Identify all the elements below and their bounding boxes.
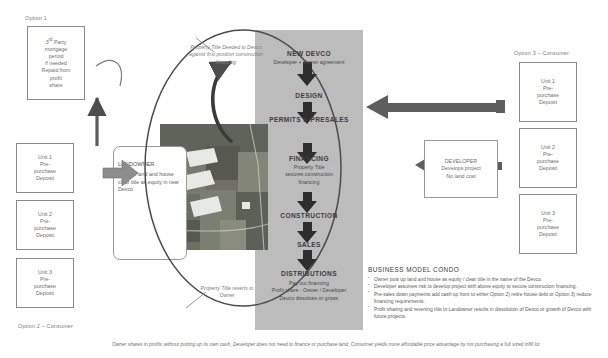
box-left-unit-2-text: Unit 2Pre-purchaseDeposit — [32, 209, 58, 242]
step-construction-title: CONSTRUCTION — [255, 212, 363, 219]
step-financing-title: FINANCING — [255, 155, 363, 162]
step-distributions-sub: Pay out financingProfit share - Owner / … — [247, 280, 371, 302]
box-left-unit-1: Unit 1Pre-purchaseDeposit — [16, 143, 74, 193]
box-third-party-mortgage-text: 3rd Partymortgageperiodif neededRepaid f… — [40, 35, 73, 91]
business-model-bullet-1: Owner puts up land and house as equity /… — [368, 276, 604, 283]
business-model-bullet-4: Profit sharing and reverting title to La… — [368, 306, 604, 321]
box-right-unit-1: Unit 1Pre-purchaseDeposit — [519, 62, 577, 122]
step-sales-title: SALES — [255, 241, 363, 248]
developer-line2: No land cost — [446, 173, 475, 179]
business-model-list: Owner puts up land and house as equity /… — [368, 276, 604, 321]
step-financing-sub: Property Titlesecures constructionfinanc… — [253, 164, 365, 186]
business-model-bullet-3: Pre-sales down payments add cash up fron… — [368, 291, 604, 306]
box-left-unit-3: Unit 3Pre-purchaseDeposit — [16, 258, 74, 308]
business-model-block: BUSINESS MODEL CONDO Owner puts up land … — [368, 266, 604, 321]
option-3-label: Option 3 – Consumer — [514, 50, 569, 56]
box-right-unit-2: Unit 2Pre-purchaseDeposit — [519, 128, 577, 188]
box-right-unit-2-text: Unit 2Pre-purchaseDeposit — [535, 142, 561, 175]
diagram-canvas: LANDOWNER Puts up land and house clear t… — [0, 0, 608, 358]
business-model-bullet-2: Developer assumes risk to develop projec… — [368, 283, 604, 290]
step-new-devco-title: NEW DEVCO — [255, 50, 363, 57]
box-left-unit-2: Unit 2Pre-purchaseDeposit — [16, 200, 74, 250]
business-model-heading: BUSINESS MODEL CONDO — [368, 266, 604, 273]
developer-line1: Develops project — [441, 165, 480, 171]
footer-note: Owner shares in profits without putting … — [112, 342, 604, 348]
box-right-unit-3: Unit 3Pre-purchaseDeposit — [519, 194, 577, 254]
step-new-devco-sub: Developer + Owner agreement — [253, 59, 365, 66]
box-right-unit-1-text: Unit 1Pre-purchaseDeposit — [535, 76, 561, 109]
box-right-unit-3-text: Unit 3Pre-purchaseDeposit — [535, 208, 561, 241]
box-left-unit-3-text: Unit 3Pre-purchaseDeposit — [32, 267, 58, 300]
box-developer-text: DEVELOPER Develops project No land cost — [439, 156, 482, 181]
option-2-label: Option 2 – Consumer — [18, 323, 73, 329]
step-distributions-title: DISTRIBUTIONS — [253, 270, 365, 277]
box-developer: DEVELOPER Develops project No land cost — [424, 140, 498, 198]
developer-title: DEVELOPER — [445, 158, 477, 164]
box-left-unit-1-text: Unit 1Pre-purchaseDeposit — [32, 152, 58, 185]
step-permits-presales-title: PERMITS & PRESALES — [253, 116, 365, 123]
option-1-label: Option 1 — [25, 15, 47, 21]
step-design-title: DESIGN — [255, 92, 363, 99]
box-third-party-mortgage: 3rd Partymortgageperiodif neededRepaid f… — [27, 26, 85, 100]
